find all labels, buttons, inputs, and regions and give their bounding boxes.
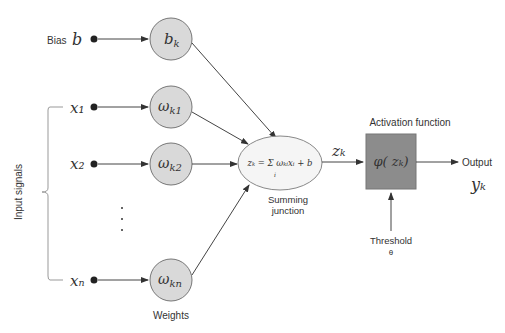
svg-text:Summing: Summing	[268, 194, 308, 205]
svg-text:φ( zₖ): φ( zₖ)	[374, 154, 409, 169]
sum-formula: zₖ = Σ ωₖᵢxᵢ + b	[246, 158, 312, 168]
input-signals-label: Input signals	[13, 164, 24, 220]
neuron-diagram: Bias b bk x₁ ωk1 x₂ ωk2 xₙ ωkn Weights I…	[0, 0, 505, 333]
output-label: Output	[462, 157, 492, 168]
svg-text:θ: θ	[389, 248, 394, 257]
weights-label: Weights	[153, 310, 189, 321]
bias-symbol: b	[72, 30, 82, 49]
bias-dot	[91, 36, 98, 43]
yk-label: yₖ	[470, 175, 486, 194]
activation-title: Activation function	[369, 117, 450, 128]
svg-text:i: i	[274, 171, 276, 178]
zk-label: zₖ	[331, 142, 346, 160]
input-x1: x₁	[70, 99, 84, 117]
input-x2: x₂	[70, 155, 84, 173]
svg-text:junction: junction	[271, 205, 305, 216]
threshold-label: Threshold	[370, 235, 412, 246]
bias-label: Bias	[47, 35, 66, 46]
input-xn: xₙ	[70, 272, 85, 290]
